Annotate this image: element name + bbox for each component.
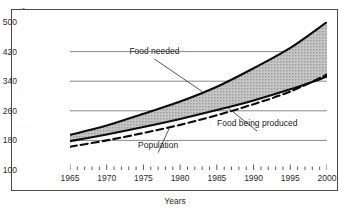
- y-tick-label: 260: [3, 106, 17, 116]
- x-tick-label: 1975: [134, 173, 153, 183]
- chart-svg: [70, 22, 327, 170]
- y-tick-label: 340: [3, 76, 17, 86]
- y-tick-label: 420: [3, 47, 17, 57]
- x-tick-label: 1995: [281, 173, 300, 183]
- plot-area: [70, 22, 327, 170]
- x-tick-label: 1980: [171, 173, 190, 183]
- annotation-food-being-produced: Food being produced: [217, 118, 297, 128]
- annotation-food-needed: Food needed: [129, 46, 179, 56]
- x-minor-ticks: [70, 165, 327, 171]
- annotation-population: Population: [138, 140, 178, 150]
- y-tick-label: 180: [3, 135, 17, 145]
- y-tick-label: 100: [3, 165, 17, 175]
- y-tick-label: 500: [3, 17, 17, 27]
- chart-figure: World population in millions 500 420 340…: [0, 0, 350, 218]
- x-tick-label: 1965: [61, 173, 80, 183]
- x-tick-label: 2000: [318, 173, 337, 183]
- x-tick-label: 1970: [97, 173, 116, 183]
- x-axis-title: Years: [0, 196, 350, 206]
- x-tick-label: 1990: [244, 173, 263, 183]
- x-tick-label: 1985: [207, 173, 226, 183]
